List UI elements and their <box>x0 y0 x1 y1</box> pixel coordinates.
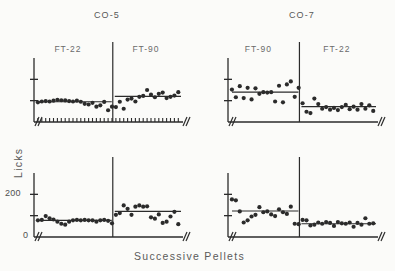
data-point <box>165 220 169 224</box>
data-point <box>110 221 114 225</box>
data-point <box>63 223 67 227</box>
data-point <box>253 213 257 217</box>
data-point <box>300 101 304 105</box>
data-point <box>269 90 273 94</box>
data-point <box>277 207 281 211</box>
data-point <box>118 100 122 104</box>
data-point <box>348 107 352 111</box>
data-point <box>118 211 122 215</box>
data-point <box>44 99 48 103</box>
data-point <box>79 100 83 104</box>
data-point <box>332 224 336 228</box>
axis-break-mark <box>378 117 385 126</box>
data-point <box>238 209 242 213</box>
data-point <box>122 107 126 111</box>
data-point <box>75 218 79 222</box>
data-point <box>352 225 356 229</box>
data-point <box>153 95 157 99</box>
data-point <box>312 223 316 227</box>
data-point <box>40 99 44 103</box>
data-point <box>289 79 293 83</box>
data-point <box>242 96 246 100</box>
data-point <box>297 86 301 90</box>
data-point <box>304 110 308 114</box>
data-point <box>363 107 367 111</box>
data-point <box>106 108 110 112</box>
data-point <box>340 105 344 109</box>
data-point <box>51 99 55 103</box>
data-point <box>157 92 161 96</box>
data-point <box>285 82 289 86</box>
data-point <box>293 222 297 226</box>
data-point <box>238 84 242 88</box>
data-point <box>249 97 253 101</box>
data-point <box>106 219 110 223</box>
data-point <box>332 106 336 110</box>
panel-top-left <box>30 42 190 126</box>
panel-top-right <box>224 42 385 126</box>
data-point <box>176 222 180 226</box>
data-point <box>87 102 91 106</box>
data-point <box>48 99 52 103</box>
data-point <box>133 99 137 103</box>
data-point <box>344 103 348 107</box>
data-point <box>129 213 133 217</box>
data-point <box>141 94 145 98</box>
data-point <box>71 99 75 103</box>
data-point <box>230 87 234 91</box>
data-point <box>253 86 257 90</box>
data-point <box>137 95 141 99</box>
data-point <box>44 214 48 218</box>
data-point <box>316 220 320 224</box>
data-point <box>316 102 320 106</box>
x-axis-title: Successive Pellets <box>134 250 245 262</box>
data-point <box>83 218 87 222</box>
data-point <box>67 99 71 103</box>
data-point <box>308 223 312 227</box>
data-point <box>363 216 367 220</box>
data-point <box>149 93 153 97</box>
data-point <box>359 223 363 227</box>
data-point <box>172 210 176 214</box>
data-point <box>129 96 133 100</box>
data-point <box>59 98 63 102</box>
data-point <box>285 212 289 216</box>
data-point <box>273 99 277 103</box>
data-point <box>269 212 273 216</box>
data-point <box>352 105 356 109</box>
data-point <box>126 98 130 102</box>
data-point <box>55 98 59 102</box>
column-title-co-7: CO-7 <box>289 10 315 20</box>
data-point <box>122 203 126 207</box>
plot-vector-layer <box>0 0 395 271</box>
data-point <box>257 205 261 209</box>
data-point <box>51 217 55 221</box>
data-point <box>265 90 269 94</box>
y-axis-title: Licks <box>12 148 24 178</box>
axis-break-mark <box>183 117 190 126</box>
data-point <box>161 90 165 94</box>
data-point <box>324 105 328 109</box>
data-point <box>234 95 238 99</box>
data-point <box>55 220 59 224</box>
data-point <box>371 109 375 113</box>
data-point <box>102 100 106 104</box>
y-tick-label-0: 0 <box>23 230 28 240</box>
data-point <box>126 207 130 211</box>
data-point <box>257 92 261 96</box>
data-point <box>234 198 238 202</box>
data-point <box>328 221 332 225</box>
data-point <box>355 221 359 225</box>
data-point <box>165 96 169 100</box>
data-point <box>63 98 67 102</box>
data-point <box>79 218 83 222</box>
data-point <box>308 111 312 115</box>
figure-canvas: CO-5CO-7FT-22FT-90FT-90FT-222000LicksSuc… <box>0 0 395 271</box>
data-point <box>145 204 149 208</box>
data-point <box>36 100 40 104</box>
data-point <box>355 108 359 112</box>
data-point <box>367 103 371 107</box>
condition-label-top-left-0: FT-22 <box>54 44 81 54</box>
data-point <box>336 108 340 112</box>
data-point <box>246 86 250 90</box>
